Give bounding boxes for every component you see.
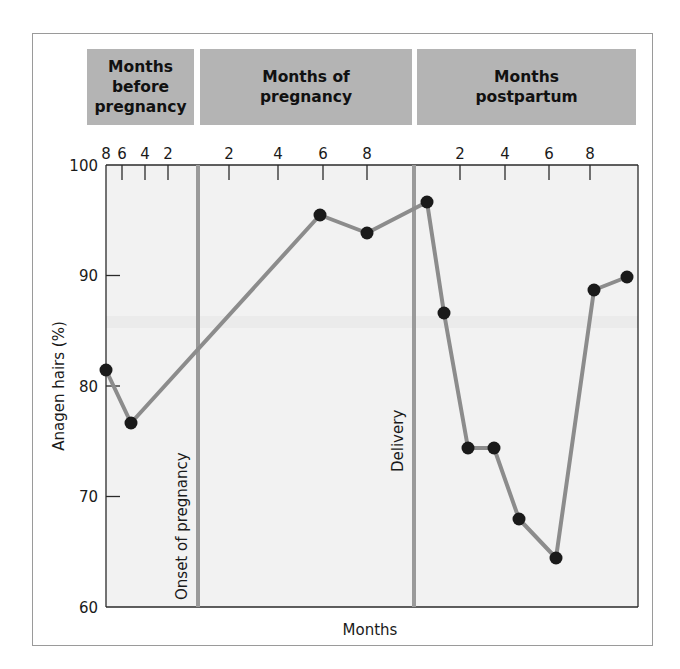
y-axis-label: Anagen hairs (%): [50, 321, 68, 451]
y-tick-80: 80: [79, 378, 98, 396]
header-before-line-2: before: [112, 78, 169, 96]
tick-before-2: 2: [163, 145, 173, 163]
scan-band: [106, 316, 638, 328]
data-point: [588, 284, 601, 297]
y-tick-60: 60: [79, 599, 98, 617]
tick-pregnancy-4: 4: [273, 145, 283, 163]
delivery-label: Delivery: [389, 410, 407, 472]
header-postpartum-line-1: Months: [494, 68, 559, 86]
tick-before-8: 8: [101, 145, 111, 163]
phase-headers: Months before pregnancy Months of pregna…: [87, 49, 636, 125]
header-before-line-1: Months: [108, 58, 173, 76]
data-point: [513, 513, 526, 526]
data-point: [488, 442, 501, 455]
chart: Months before pregnancy Months of pregna…: [0, 0, 680, 669]
data-point: [621, 271, 634, 284]
tick-pregnancy-6: 6: [318, 145, 328, 163]
header-box-postpartum: [417, 49, 636, 125]
data-point: [361, 227, 374, 240]
x-axis-label: Months: [343, 621, 398, 639]
tick-pregnancy-8: 8: [362, 145, 372, 163]
tick-postpartum-4: 4: [500, 145, 510, 163]
data-point: [314, 209, 327, 222]
data-point: [462, 442, 475, 455]
tick-before-6: 6: [117, 145, 127, 163]
tick-before-4: 4: [140, 145, 150, 163]
y-tick-100: 100: [69, 157, 98, 175]
onset-of-pregnancy-label: Onset of pregnancy: [173, 452, 191, 600]
tick-pregnancy-2: 2: [224, 145, 234, 163]
data-point: [550, 552, 563, 565]
tick-postpartum-8: 8: [585, 145, 595, 163]
tick-postpartum-6: 6: [544, 145, 554, 163]
header-before-line-3: pregnancy: [94, 98, 186, 116]
header-pregnancy-line-1: Months of: [262, 68, 350, 86]
data-point: [438, 307, 451, 320]
data-point: [421, 196, 434, 209]
tick-postpartum-2: 2: [455, 145, 465, 163]
y-tick-90: 90: [79, 267, 98, 285]
header-postpartum-line-2: postpartum: [475, 88, 577, 106]
data-point: [125, 417, 138, 430]
header-box-pregnancy: [200, 49, 412, 125]
data-point: [100, 364, 113, 377]
header-pregnancy-line-2: pregnancy: [260, 88, 352, 106]
y-tick-70: 70: [79, 488, 98, 506]
